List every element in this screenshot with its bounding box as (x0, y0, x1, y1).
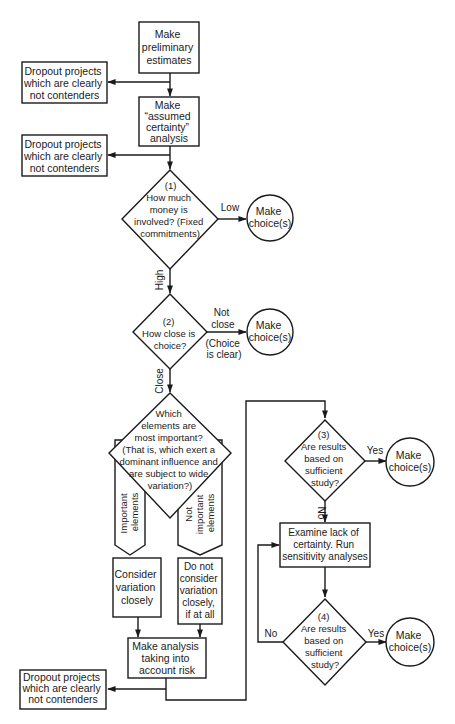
node-dropout-2: Dropout projects which are clearly not c… (22, 135, 107, 176)
node-decision-2-closeness: (2) How close is choice? (133, 294, 207, 369)
label-high: High (154, 270, 165, 291)
node-dropout-1: Dropout projects which are clearly not c… (22, 62, 107, 103)
svg-text:Make analysis taking int: Make analysis taking into account risk (132, 640, 201, 676)
svg-text:Dropout projects which a: Dropout projects which are clearly not c… (21, 671, 103, 705)
node-make-choice-1: Make choice(s) (247, 195, 293, 241)
label-choice-is-clear: (Choice is clear) (205, 338, 242, 360)
node-preliminary-estimates: Make preliminary estimates (139, 22, 199, 73)
label-q4-no: No (265, 628, 278, 639)
node-make-choice-4: Make choice(s) (386, 618, 434, 666)
node-make-choice-3: Make choice(s) (386, 438, 434, 486)
node-decision-1-money: (1) How much money is involved? (Fixed c… (122, 170, 218, 269)
node-analysis-with-risk: Make analysis taking into account risk (128, 638, 206, 678)
node-examine-sensitivity: Examine lack of certainty. Run sensitivi… (280, 523, 370, 567)
label-q3-yes: Yes (367, 445, 383, 456)
label-close: Close (154, 368, 165, 394)
label-q3-no: No (316, 507, 327, 520)
node-decision-4-sufficient-study: (4) Are results based on sufficient stud… (283, 599, 366, 685)
svg-text:Consider variation: Consider variation closely (115, 568, 160, 606)
node-do-not-consider-variation: Do not consider variation closely, if at… (178, 558, 222, 624)
svg-text:Which elements are: Which elements are most important? (That… (120, 408, 221, 491)
node-dropout-3: Dropout projects which are clearly not c… (20, 670, 106, 709)
svg-text:Do not consider va: Do not consider variation closely, if at… (180, 561, 221, 620)
label-low: Low (221, 202, 240, 213)
svg-text:Dropout projects which a: Dropout projects which are clearly not c… (23, 65, 105, 101)
label-not-close: Not close (211, 307, 235, 330)
node-assumed-certainty: Make “assumed certainty” analysis (139, 97, 199, 146)
node-consider-variation: Consider variation closely (113, 558, 161, 617)
svg-text:Examine lack of certaint: Examine lack of certainty. Run sensitivi… (282, 527, 368, 562)
node-decision-3-sufficient-study: (3) Are results based on sufficient stud… (285, 420, 365, 501)
node-make-choice-2: Make choice(s) (247, 309, 293, 355)
svg-text:Dropout projects which a: Dropout projects which are clearly not c… (23, 138, 105, 174)
flowchart: Make preliminary estimates Dropout proje… (0, 0, 455, 724)
label-q4-yes: Yes (368, 628, 384, 639)
svg-text:Important elements: Important elements (118, 491, 140, 534)
